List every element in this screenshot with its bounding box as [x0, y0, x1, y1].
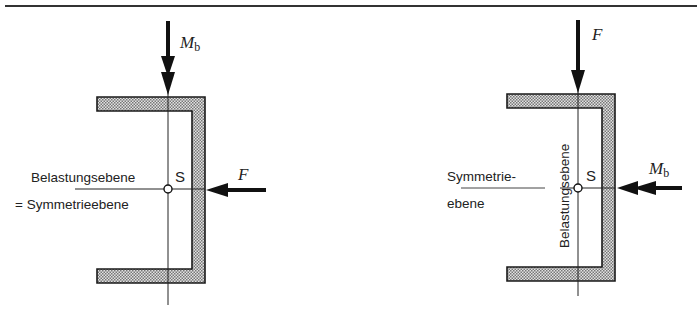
force-arrow-down-icon — [571, 20, 585, 93]
symmetry-label-line2-right: ebene — [447, 196, 485, 211]
label-mb-left: Mb — [179, 33, 200, 54]
label-f-left: F — [237, 165, 249, 184]
centroid-label-left: S — [175, 168, 185, 185]
moment-arrow-left-icon — [617, 181, 682, 195]
symmetry-label-line1-right: Symmetrie- — [447, 169, 516, 184]
label-f-right: F — [591, 25, 603, 44]
centroid-marker-left — [164, 185, 172, 193]
label-mb-right: Mb — [648, 159, 669, 180]
force-arrow-left-icon — [206, 183, 266, 197]
left-panel: Mb F S Belastungsebene = Symmetrieebene — [15, 21, 266, 305]
centroid-marker-right — [574, 184, 582, 192]
channel-section-left — [97, 97, 205, 283]
moment-arrow-down-icon — [161, 21, 175, 95]
symmetry-plane-label-left: = Symmetrieebene — [15, 197, 129, 212]
load-plane-label-right: Belastungsebene — [557, 144, 572, 248]
right-panel: F Mb S Symmetrie- ebene Belastungsebene — [447, 20, 682, 296]
channel-section-diagram: Mb F S Belastungsebene = Symmetrieebene … — [0, 0, 697, 317]
centroid-label-right: S — [586, 167, 596, 184]
load-plane-label-left: Belastungsebene — [31, 170, 135, 185]
